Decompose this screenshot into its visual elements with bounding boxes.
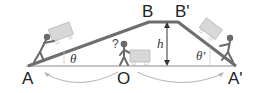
point-b-label: B: [142, 3, 153, 20]
arrow-head-a: [44, 72, 50, 77]
arrow-o-to-a: [46, 72, 118, 83]
height-arrow-bottom: [164, 60, 170, 66]
person-standing-o: [120, 41, 130, 65]
question-mark: ?: [112, 38, 119, 50]
height-label: h: [157, 37, 164, 50]
point-aprime-label: A': [228, 70, 243, 87]
arrow-o-to-aprime: [137, 72, 222, 83]
point-o-label: O: [117, 70, 130, 87]
point-a-label: A: [22, 70, 33, 87]
theta-prime-label: θ': [196, 49, 205, 62]
point-bprime-label: B': [175, 3, 190, 20]
arrow-head-aprime: [218, 72, 224, 77]
theta-label: θ: [70, 52, 76, 65]
cart-middle: [130, 50, 150, 65]
